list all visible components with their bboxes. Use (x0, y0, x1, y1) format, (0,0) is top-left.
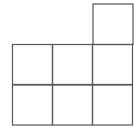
grid-cell (93, 45, 133, 85)
grid-cell (53, 45, 93, 85)
grid-cell (93, 85, 133, 125)
grid-cell (93, 4, 133, 45)
grid-cell (13, 85, 53, 125)
square-grid-diagram (0, 0, 134, 131)
grid-cell (13, 45, 53, 85)
grid-cell (53, 85, 93, 125)
